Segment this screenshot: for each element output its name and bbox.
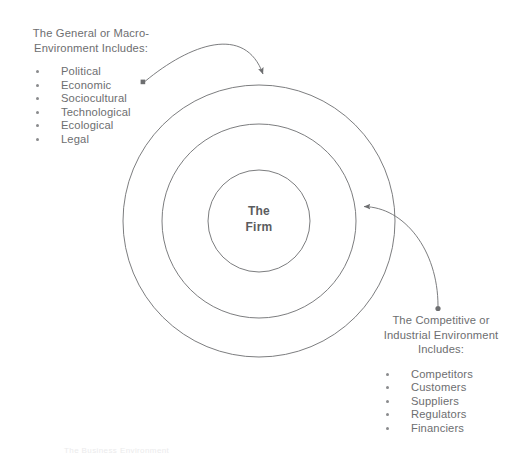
list-item: Ecological: [36, 119, 164, 133]
list-item-label: Financiers: [411, 422, 464, 434]
macro-environment-list: Political Economic Sociocultural Technol…: [36, 65, 164, 147]
bullet-icon: [386, 373, 389, 376]
list-item: Political: [36, 65, 164, 79]
firm-core-label: The Firm: [208, 203, 310, 235]
list-item-label: Competitors: [411, 368, 473, 380]
list-item-label: Political: [61, 65, 101, 77]
bullet-icon: [36, 124, 39, 127]
competitive-environment-block: The Competitive or Industrial Environmen…: [368, 313, 514, 435]
list-item-label: Economic: [61, 79, 111, 91]
list-item: Competitors: [386, 368, 514, 382]
list-item-label: Legal: [61, 133, 89, 145]
list-item: Regulators: [386, 408, 514, 422]
list-item-label: Technological: [61, 106, 131, 118]
bullet-icon: [386, 400, 389, 403]
bullet-icon: [36, 138, 39, 141]
competitive-environment-heading: The Competitive or Industrial Environmen…: [368, 313, 514, 357]
competitive-connector-start-dot: [435, 306, 440, 311]
bullet-icon: [36, 111, 39, 114]
bullet-icon: [36, 97, 39, 100]
list-item: Customers: [386, 381, 514, 395]
list-item: Legal: [36, 133, 164, 147]
macro-environment-heading: The General or Macro- Environment Includ…: [18, 26, 164, 55]
macro-environment-block: The General or Macro- Environment Includ…: [18, 26, 164, 147]
list-item-label: Ecological: [61, 119, 114, 131]
list-item: Economic: [36, 79, 164, 93]
list-item: Suppliers: [386, 395, 514, 409]
figure-caption: The Business Environment: [64, 446, 169, 455]
list-item-label: Suppliers: [411, 395, 459, 407]
list-item: Sociocultural: [36, 92, 164, 106]
list-item-label: Regulators: [411, 408, 467, 420]
bullet-icon: [36, 70, 39, 73]
bullet-icon: [386, 413, 389, 416]
bullet-icon: [386, 386, 389, 389]
list-item-label: Customers: [411, 381, 466, 393]
list-item: Technological: [36, 106, 164, 120]
competitive-environment-list: Competitors Customers Suppliers Regulato…: [386, 368, 514, 436]
list-item-label: Sociocultural: [61, 92, 127, 104]
bullet-icon: [36, 84, 39, 87]
list-item: Financiers: [386, 422, 514, 436]
bullet-icon: [386, 427, 389, 430]
